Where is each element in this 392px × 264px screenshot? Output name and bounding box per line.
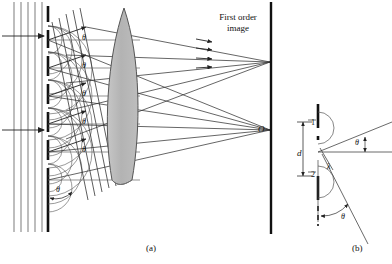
rays-through-lens-upper [66, 27, 270, 139]
slit-separation-label: d [297, 148, 302, 158]
panel-b-wavelets [318, 112, 334, 198]
origin-point-label: O [258, 124, 265, 134]
incident-wavefronts [14, 2, 42, 232]
converging-arrowheads [196, 39, 212, 68]
first-order-line1: First order [219, 12, 257, 22]
theta-label-5: θ [82, 145, 86, 154]
theta-label-4: θ [82, 117, 86, 126]
path-difference-label: λ [327, 162, 330, 171]
theta-label-2: θ [82, 61, 86, 70]
theta-label-3: θ [82, 89, 86, 98]
ray-from-slit-1 [318, 122, 392, 152]
first-order-line2: image [227, 23, 249, 33]
converging-lens [107, 8, 138, 185]
incident-ray-arrows [2, 36, 44, 130]
first-order-image-label: First order image [200, 12, 276, 34]
theta-label-1: θ [82, 33, 86, 42]
optics-figure: First order image θ θ θ θ θ θ O 1 2 d λ … [0, 0, 392, 264]
theta-label-b-upper: θ [355, 138, 359, 147]
theta-label-b-lower: θ [341, 212, 345, 221]
panel-a-caption: (a) [146, 243, 156, 253]
figure-svg [0, 0, 392, 264]
panel-b-caption: (b) [352, 243, 363, 253]
slit-leader-lines [308, 120, 316, 172]
panel-a [2, 2, 271, 234]
slit-number-2: 2 [311, 170, 315, 179]
slit-number-1: 1 [311, 118, 315, 127]
theta-label-bottom: θ [56, 185, 60, 194]
